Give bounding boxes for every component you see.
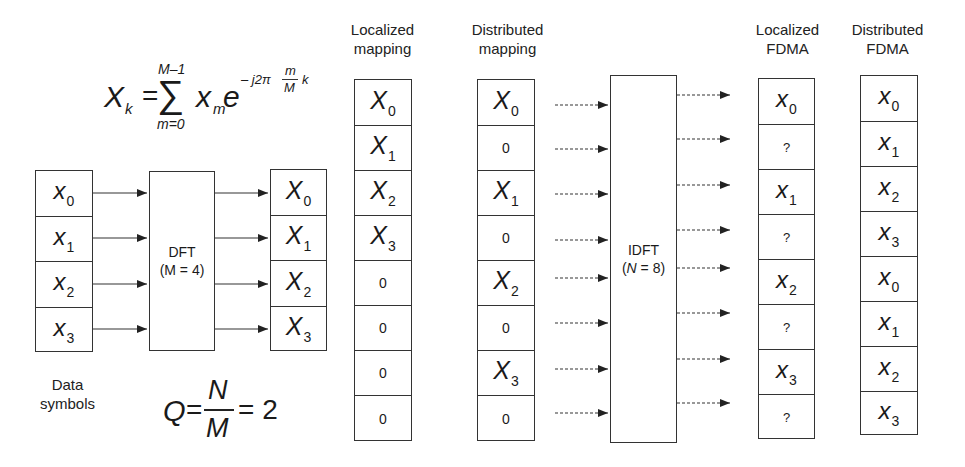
idft-to-output-arrows: [677, 95, 730, 403]
dft-to-output-arrows: [215, 193, 268, 329]
arrow-layer: [0, 0, 965, 467]
data-to-dft-arrows: [93, 193, 147, 329]
mapping-to-idft-arrows: [555, 105, 608, 413]
